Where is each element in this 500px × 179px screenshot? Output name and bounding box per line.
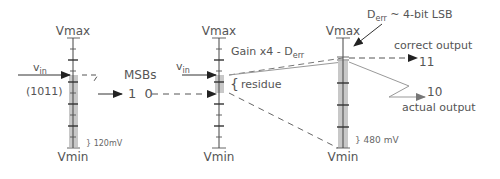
stage1-lsb-label: } 120mV	[86, 139, 123, 148]
msbs-value: 1 0	[128, 86, 155, 101]
correct-output-label: correct output	[394, 39, 473, 52]
stage1-vmax-label: Vmax	[56, 24, 90, 38]
actual-output-value: 10	[427, 85, 442, 99]
stage2-vmin-label: Vmin	[204, 150, 235, 164]
gain-lower-line	[229, 93, 338, 148]
ideal-gain-upper-line	[229, 58, 343, 75]
stage2-scale	[212, 38, 226, 148]
correct-output-value: 11	[419, 55, 434, 69]
residue-label: residue	[241, 78, 282, 91]
derr-label: Derr ~ 4-bit LSB	[367, 8, 453, 23]
stage2-vin-label: vin	[176, 60, 190, 75]
msbs-label: MSBs	[124, 68, 156, 82]
actual-gain-upper-line	[229, 62, 343, 75]
stage1-scale	[67, 38, 80, 148]
stage1-vmin-label: Vmin	[58, 150, 89, 164]
residue-brace: {	[230, 76, 239, 92]
stage1-code-label: (1011)	[26, 85, 63, 98]
stage1-vin-label: vin	[33, 61, 47, 76]
adc-residue-diagram: Vmax Vmin vin (1011) } 120mV MSBs 1 0 Vm…	[0, 0, 500, 179]
actual-output-path	[349, 62, 425, 97]
stage2-vmax-label: Vmax	[202, 24, 236, 38]
stage3-vmax-label: Vmax	[326, 24, 360, 38]
actual-output-label: actual output	[402, 101, 476, 114]
gain-label: Gain x4 - Derr	[231, 45, 305, 60]
stage1-to-msbs-path	[82, 75, 98, 84]
stage3-vmin-label: Vmin	[328, 150, 359, 164]
stage3-lsb-label: } 480 mV	[355, 135, 399, 145]
stage3-scale	[336, 38, 350, 148]
